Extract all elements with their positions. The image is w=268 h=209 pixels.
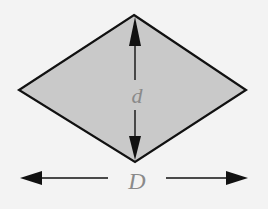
arrowhead-left-icon	[20, 171, 42, 185]
rhombus-diagram: d D	[0, 0, 268, 209]
short-diagonal-label: d	[132, 83, 144, 108]
arrowhead-right-icon	[226, 171, 248, 185]
diagram-svg: d D	[0, 0, 268, 209]
long-diagonal-label: D	[127, 168, 145, 194]
